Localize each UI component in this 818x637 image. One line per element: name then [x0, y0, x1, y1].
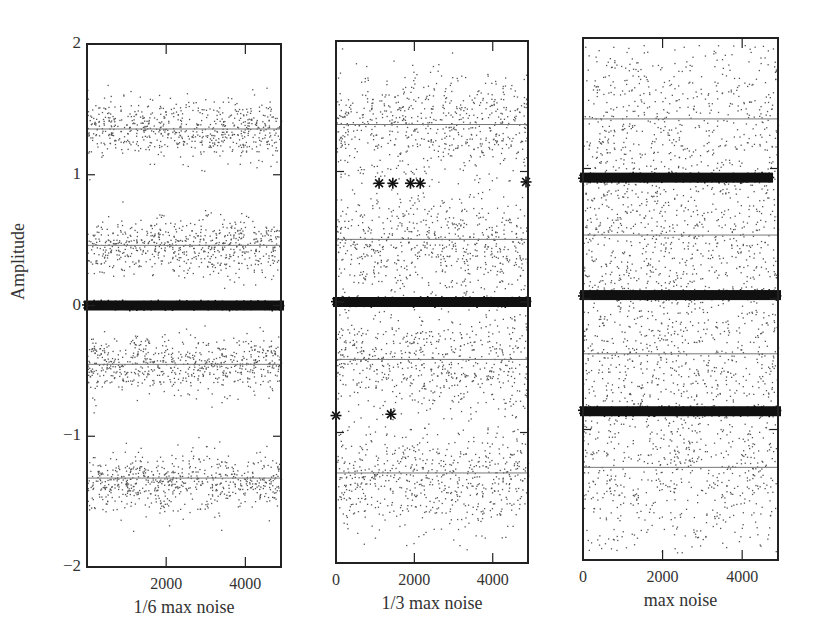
decision-star-band	[578, 289, 781, 301]
scatter-panel-2	[331, 41, 532, 563]
y-tick-label: 2	[51, 33, 81, 53]
x-axis-label: 1/6 max noise	[134, 597, 235, 618]
y-axis-label: Amplitude	[8, 223, 29, 300]
x-tick-label: 4000	[463, 571, 523, 589]
x-tick-label: 0	[306, 571, 366, 589]
decision-star	[415, 178, 426, 189]
x-tick-label: 4000	[712, 568, 772, 586]
x-axis-label: 1/3 max noise	[382, 593, 483, 614]
x-tick-label: 2000	[633, 568, 693, 586]
decision-star-band	[578, 405, 781, 417]
x-axis-label: max noise	[644, 590, 718, 611]
y-tick-label: −2	[51, 556, 81, 576]
decision-star	[387, 178, 398, 189]
scatter-panel-1	[82, 44, 284, 567]
x-tick-label: 0	[553, 568, 613, 586]
y-tick-label: 0	[51, 295, 81, 315]
decision-star	[405, 178, 416, 189]
x-tick-label: 2000	[384, 571, 444, 589]
decision-star	[521, 176, 532, 187]
decision-star	[374, 178, 385, 189]
y-tick-label: 1	[51, 164, 81, 184]
figure-canvas	[0, 0, 818, 637]
y-tick-label: −1	[51, 425, 81, 445]
decision-star-band	[82, 300, 284, 312]
scatter-panel-3	[578, 38, 781, 560]
x-tick-label: 4000	[215, 575, 275, 593]
decision-star-band	[331, 296, 531, 308]
x-tick-label: 2000	[136, 575, 196, 593]
decision-star	[385, 409, 396, 420]
decision-star-band	[578, 172, 774, 184]
